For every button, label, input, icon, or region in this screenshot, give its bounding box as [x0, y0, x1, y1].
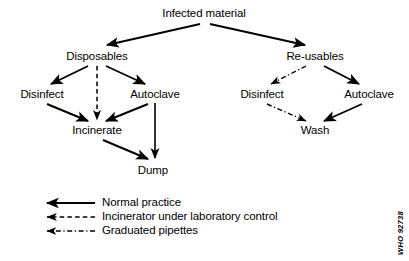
edge-disinfect-to-incinerate [47, 104, 88, 121]
node-wash: Wash [301, 125, 330, 137]
edge-incinerate-to-dump [103, 140, 148, 159]
edge-reusables-to-disinfect-dashdot [271, 66, 306, 84]
legend-label-graduated-pipettes: Graduated pipettes [102, 225, 198, 237]
node-disposables: Disposables [66, 51, 128, 63]
flowchart-diagram: Infected material Disposables Re-usables… [0, 0, 409, 261]
node-autoclave-left: Autoclave [130, 89, 180, 101]
edge-disposables-to-autoclave [106, 66, 145, 84]
node-disinfect-left: Disinfect [20, 89, 63, 101]
node-dump: Dump [138, 165, 168, 177]
edge-reusables-to-autoclave [324, 66, 359, 84]
node-reusables: Re-usables [286, 51, 343, 63]
legend-label-incinerator-control: Incinerator under laboratory control [102, 211, 277, 223]
edge-infected-to-disposables [107, 24, 200, 45]
node-incinerate: Incinerate [72, 125, 122, 137]
who-reference-code: WHO 92738 [396, 211, 405, 255]
node-autoclave-right: Autoclave [344, 89, 394, 101]
edge-disposables-to-disinfect [51, 66, 88, 84]
node-disinfect-right: Disinfect [240, 89, 283, 101]
edge-autoclave-to-wash [324, 104, 362, 121]
legend-label-normal-practice: Normal practice [102, 197, 181, 209]
edge-autoclave-to-incinerate [106, 104, 148, 121]
node-infected-material: Infected material [162, 8, 245, 20]
edge-infected-to-reusables [210, 24, 305, 45]
edge-disinfect-to-wash-dashdot [267, 104, 306, 121]
